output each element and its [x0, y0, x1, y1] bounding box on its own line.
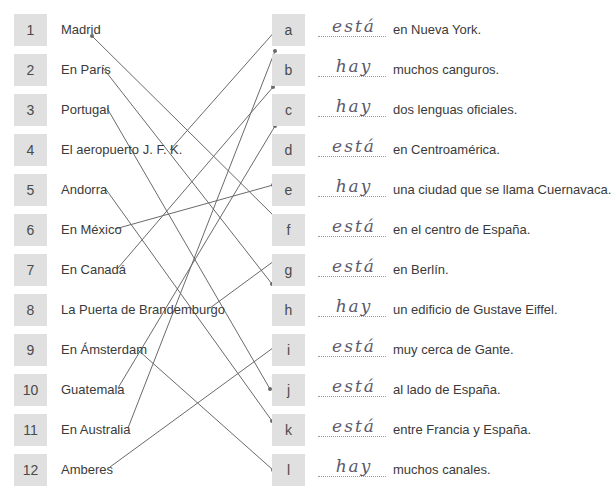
sentence-text: en Centroamérica.	[393, 134, 500, 166]
handwritten-answer: está	[326, 16, 382, 36]
answer-blank[interactable]: está	[318, 374, 386, 406]
right-item-g: g está en Berlín.	[0, 254, 601, 286]
handwritten-answer: hay	[326, 296, 382, 316]
dotted-line	[318, 356, 386, 357]
sentence-text: al lado de España.	[393, 374, 501, 406]
answer-blank[interactable]: está	[318, 334, 386, 366]
dotted-line	[318, 316, 386, 317]
letter-box[interactable]: e	[272, 174, 305, 206]
answer-blank[interactable]: está	[318, 254, 386, 286]
right-item-b: b hay muchos canguros.	[0, 54, 601, 86]
letter-box[interactable]: l	[272, 454, 305, 486]
answer-blank[interactable]: está	[318, 134, 386, 166]
letter-box[interactable]: h	[272, 294, 305, 326]
sentence-text: dos lenguas oficiales.	[393, 94, 517, 126]
handwritten-answer: está	[326, 256, 382, 276]
dotted-line	[318, 236, 386, 237]
dotted-line	[318, 396, 386, 397]
answer-blank[interactable]: hay	[318, 94, 386, 126]
dotted-line	[318, 116, 386, 117]
right-item-c: c hay dos lenguas oficiales.	[0, 94, 601, 126]
answer-blank[interactable]: está	[318, 14, 386, 46]
handwritten-answer: está	[326, 416, 382, 436]
letter-box[interactable]: i	[272, 334, 305, 366]
right-item-i: i está muy cerca de Gante.	[0, 334, 601, 366]
dotted-line	[318, 196, 386, 197]
right-item-e: e hay una ciudad que se llama Cuernavaca…	[0, 174, 601, 206]
right-item-d: d está en Centroamérica.	[0, 134, 601, 166]
answer-blank[interactable]: está	[318, 214, 386, 246]
sentence-text: entre Francia y España.	[393, 414, 531, 446]
right-item-l: l hay muchos canales.	[0, 454, 601, 486]
handwritten-answer: hay	[326, 56, 382, 76]
answer-blank[interactable]: hay	[318, 294, 386, 326]
handwritten-answer: está	[326, 216, 382, 236]
sentence-text: en Nueva York.	[393, 14, 481, 46]
dotted-line	[318, 76, 386, 77]
sentence-text: muchos canguros.	[393, 54, 499, 86]
handwritten-answer: hay	[326, 176, 382, 196]
letter-box[interactable]: d	[272, 134, 305, 166]
handwritten-answer: está	[326, 336, 382, 356]
dotted-line	[318, 276, 386, 277]
right-item-a: a está en Nueva York.	[0, 14, 601, 46]
right-item-f: f está en el centro de España.	[0, 214, 601, 246]
sentence-text: muy cerca de Gante.	[393, 334, 514, 366]
dotted-line	[318, 36, 386, 37]
match-line-4-a	[170, 29, 277, 150]
handwritten-answer: hay	[326, 456, 382, 476]
dotted-line	[318, 476, 386, 477]
letter-box[interactable]: b	[272, 54, 305, 86]
right-item-k: k está entre Francia y España.	[0, 414, 601, 446]
answer-blank[interactable]: hay	[318, 174, 386, 206]
letter-box[interactable]: c	[272, 94, 305, 126]
sentence-text: un edificio de Gustave Eiffel.	[393, 294, 558, 326]
sentence-text: en Berlín.	[393, 254, 449, 286]
sentence-text: una ciudad que se llama Cuernavaca.	[393, 174, 611, 206]
handwritten-answer: hay	[326, 96, 382, 116]
letter-box[interactable]: f	[272, 214, 305, 246]
answer-blank[interactable]: hay	[318, 54, 386, 86]
match-line-9-l	[138, 350, 273, 470]
letter-box[interactable]: k	[272, 414, 305, 446]
letter-box[interactable]: j	[272, 374, 305, 406]
right-item-h: h hay un edificio de Gustave Eiffel.	[0, 294, 601, 326]
right-item-j: j está al lado de España.	[0, 374, 601, 406]
handwritten-answer: está	[326, 376, 382, 396]
sentence-text: muchos canales.	[393, 454, 491, 486]
letter-box[interactable]: a	[272, 14, 305, 46]
letter-box[interactable]: g	[272, 254, 305, 286]
dotted-line	[318, 156, 386, 157]
answer-blank[interactable]: está	[318, 414, 386, 446]
answer-blank[interactable]: hay	[318, 454, 386, 486]
handwritten-answer: está	[326, 136, 382, 156]
dotted-line	[318, 436, 386, 437]
sentence-text: en el centro de España.	[393, 214, 530, 246]
